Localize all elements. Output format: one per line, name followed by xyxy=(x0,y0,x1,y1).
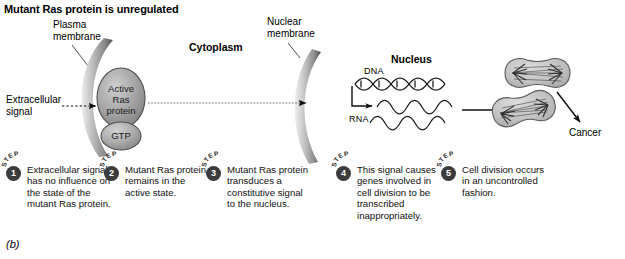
step-badge-2: 2 xyxy=(104,166,119,181)
nuclear-membrane-arc xyxy=(295,49,321,164)
svg-text:STEP: STEP xyxy=(0,150,19,168)
svg-text:STEP: STEP xyxy=(200,150,219,168)
step-badge-4: 4 xyxy=(336,166,351,181)
svg-text:STEP: STEP xyxy=(330,150,349,168)
cytoplasm-label: Cytoplasm xyxy=(189,41,243,53)
plasma-membrane-label-line1: Plasma xyxy=(53,19,86,31)
panel-letter: (b) xyxy=(6,238,19,250)
cancer-arrow xyxy=(557,92,580,122)
extracellular-signal-label-line2: signal xyxy=(6,106,32,118)
step-badge-3: 3 xyxy=(206,166,221,181)
step-text-4: This signal causes genes involved in cel… xyxy=(357,164,443,221)
plasma-membrane-label-line2: membrane xyxy=(53,31,101,43)
dna-label: DNA xyxy=(364,66,384,76)
gtp-label: GTP xyxy=(103,130,139,141)
rna-label: RNA xyxy=(349,114,369,124)
nuclear-membrane-label-line1: Nuclear xyxy=(267,16,301,28)
plasma-membrane-leader-line xyxy=(72,45,88,66)
figure-title: Mutant Ras protein is unregulated xyxy=(4,3,179,15)
extracellular-signal-label-line1: Extracellular xyxy=(6,94,61,106)
step-text-3: Mutant Ras protein transduces a constitu… xyxy=(227,164,313,210)
step-text-2: Mutant Ras protein remains in the active… xyxy=(125,164,211,198)
dividing-cell-lower xyxy=(492,90,555,126)
cancer-label: Cancer xyxy=(569,127,601,139)
step-badge-5: 5 xyxy=(441,166,456,181)
active-ras-protein-label: Active Ras protein xyxy=(101,83,141,116)
step-badge-1: 1 xyxy=(6,166,21,181)
nucleus-label: Nucleus xyxy=(391,53,432,65)
ras-label-line2: Ras xyxy=(101,94,141,105)
ras-label-line3: protein xyxy=(101,105,141,116)
figure-panel-b: Mutant Ras protein is unregulated Plasma… xyxy=(0,0,625,259)
dividing-cell-upper xyxy=(505,59,570,88)
step-text-1: Extracellular signal has no influence on… xyxy=(27,164,113,210)
svg-text:STEP: STEP xyxy=(435,150,454,168)
nuclear-membrane-label-line2: membrane xyxy=(267,28,315,40)
rna-strands xyxy=(370,100,452,130)
step-text-5: Cell division occurs in an uncontrolled … xyxy=(462,164,548,198)
ras-label-line1: Active xyxy=(101,83,141,94)
dna-double-helix xyxy=(355,78,445,90)
transcription-arrow xyxy=(352,86,372,106)
svg-text:STEP: STEP xyxy=(98,150,117,168)
nuclear-membrane-leader-line xyxy=(288,43,300,58)
